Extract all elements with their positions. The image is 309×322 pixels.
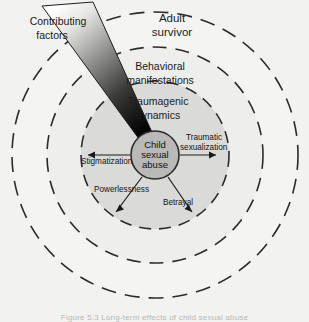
label-stigmatization: Stigmatization [81,157,133,166]
label-contributing-line1: Contributing [30,15,87,27]
label-contributing-line2: factors [36,29,68,41]
label-behavioral-line2: manifestations [126,74,194,86]
label-adult-survivor-line2: survivor [152,26,192,38]
label-traumatic-sexualization-line2: sexualization [180,143,228,152]
label-traumagenic-line1: Traumagenic [128,95,189,107]
label-core-line3: abuse [142,159,168,170]
figure-caption: Figure 5.3 Long-term effects of child se… [0,313,309,322]
label-powerlessness: Powerlessness [94,185,149,194]
core-label-group: Child sexual abuse [141,139,168,170]
label-adult-survivor-line1: Adult [159,12,186,24]
label-traumatic-sexualization-line1: Traumatic [186,133,222,142]
label-traumagenic-line2: dynamics [136,109,180,121]
label-behavioral-line1: Behavioral [135,60,185,72]
label-betrayal: Betrayal [163,198,193,207]
